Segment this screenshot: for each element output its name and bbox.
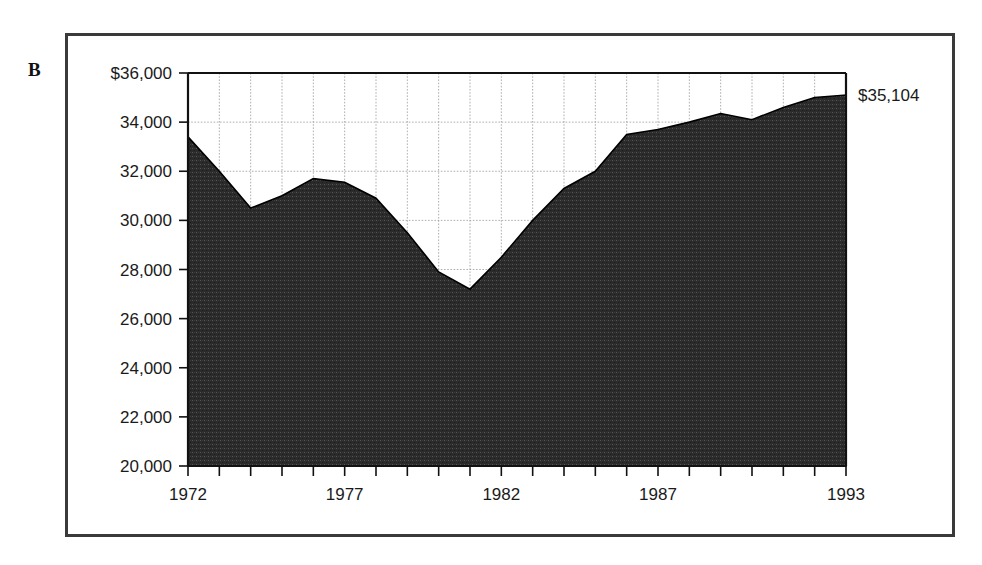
- panel-letter: B: [28, 60, 41, 79]
- figure-frame: [65, 33, 955, 537]
